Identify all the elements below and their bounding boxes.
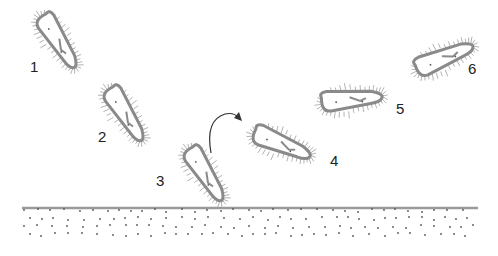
cell-step-label: 2 xyxy=(98,128,106,145)
cell-step-label: 6 xyxy=(468,60,476,77)
ciliate-cell-icon xyxy=(240,115,322,174)
cell-step-label: 1 xyxy=(30,58,38,75)
arrowhead-icon xyxy=(234,112,242,121)
cell-step-label: 4 xyxy=(330,152,338,169)
ciliate-cell-icon xyxy=(312,77,390,123)
turning-arrow-icon xyxy=(210,114,239,154)
sediment-dots xyxy=(23,208,474,237)
ciliate-cell-icon xyxy=(403,27,485,91)
cell-step-label: 5 xyxy=(396,100,404,117)
ciliate-cell-icon xyxy=(169,134,241,215)
cell-step-label: 3 xyxy=(156,172,164,189)
cells-layer xyxy=(22,1,486,215)
diagram-canvas xyxy=(0,0,498,256)
ciliate-rebound-diagram: 123456 xyxy=(0,0,498,256)
